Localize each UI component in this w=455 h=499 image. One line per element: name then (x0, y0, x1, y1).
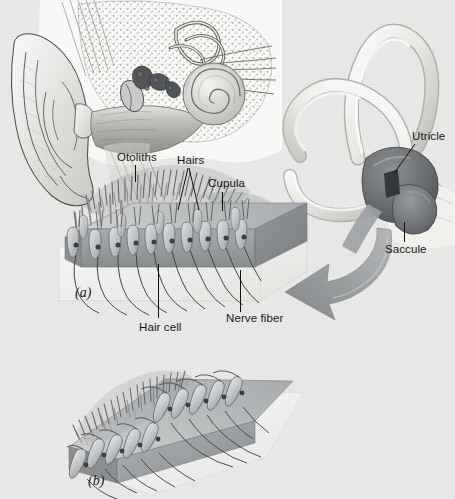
leader-line-nerve-fiber (240, 270, 241, 312)
leader-line-hairs (176, 168, 202, 210)
leader-line-saccule (404, 222, 405, 242)
leader-line-utricle (393, 144, 417, 174)
label-nerve-fiber: Nerve fiber (226, 313, 283, 325)
label-cupula: Cupula (208, 178, 245, 190)
label-utricle: Utricle (412, 131, 445, 143)
label-hairs: Hairs (177, 155, 204, 167)
panel-marker-b: (b) (88, 474, 104, 488)
panel-marker-a: (a) (75, 286, 91, 300)
leader-line-hair-cell (158, 264, 159, 318)
leader-line-otoliths (135, 165, 136, 182)
label-otoliths: Otoliths (117, 152, 157, 164)
leader-line-cupula (222, 192, 223, 211)
label-hair-cell: Hair cell (139, 322, 181, 334)
figure-canvas: Otoliths Hairs Cupula Utricle Saccule Ha… (0, 0, 455, 499)
label-saccule: Saccule (385, 244, 427, 256)
